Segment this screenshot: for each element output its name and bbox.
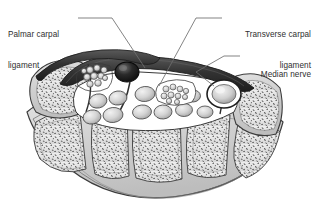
figure-canvas: Palmar carpal ligament Transverse carpal… [0,0,319,210]
ulnar-artery [115,62,139,82]
label-palmar-line1: Palmar carpal [8,30,59,40]
label-median-nerve: Median nerve [261,49,311,101]
median-nerve-fascicles [156,80,196,106]
label-palmar-line2: ligament [8,61,59,71]
label-median-line1: Median nerve [261,70,311,80]
bone-hamate [34,112,86,171]
flexor-pollicis-tendon [197,106,213,118]
label-transverse-line1: Transverse carpal [245,30,311,40]
label-palmar-carpal-ligament: Palmar carpal ligament [8,9,59,92]
